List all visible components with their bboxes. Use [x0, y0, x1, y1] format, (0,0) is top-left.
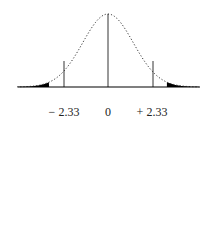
tick-label-zero: 0 — [105, 105, 111, 120]
tick-label-plus-2-33: + 2.33 — [137, 105, 168, 120]
tick-label-minus-2-33: − 2.33 — [49, 105, 80, 120]
